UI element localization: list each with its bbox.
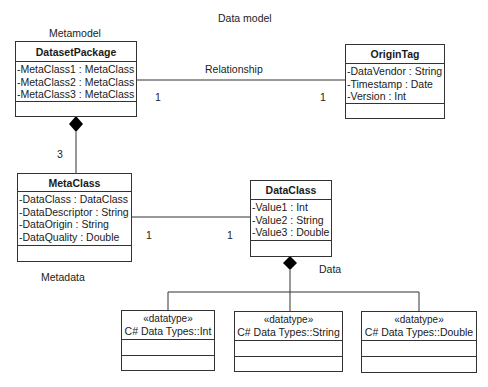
- attribute: -DataVendor : String: [347, 65, 444, 78]
- datatype-int[interactable]: «datatype» C# Data Types::Int: [121, 310, 215, 371]
- datatype-double[interactable]: «datatype» C# Data Types::Double: [361, 311, 477, 373]
- meta-data-target-multiplicity: 1: [227, 229, 233, 241]
- attributes-section: -MetaClass1 : MetaClass -MetaClass2 : Me…: [16, 62, 136, 102]
- relationship-target-multiplicity: 1: [320, 91, 326, 103]
- class-name: DatasetPackage: [16, 42, 136, 62]
- class-name: MetaClass: [18, 174, 131, 192]
- attribute: -MetaClass3 : MetaClass: [17, 88, 136, 101]
- datatype-header: «datatype» C# Data Types::Double: [362, 312, 476, 341]
- class-origin-tag[interactable]: OriginTag -DataVendor : String -Timestam…: [345, 44, 445, 119]
- datatype-string[interactable]: «datatype» C# Data Types::String: [234, 311, 343, 372]
- composition-multiplicity: 3: [57, 148, 63, 160]
- attribute: -Version : Int: [347, 90, 444, 103]
- datatype-name: C# Data Types::Double: [365, 326, 473, 339]
- diagram-title: Data model: [218, 12, 272, 24]
- attribute: -DataDescriptor : String: [19, 206, 131, 219]
- attribute: -Timestamp : Date: [347, 78, 444, 91]
- class-dataset-package[interactable]: DatasetPackage -MetaClass1 : MetaClass -…: [15, 41, 137, 117]
- data-label: Data: [319, 263, 341, 275]
- attributes-section: -DataVendor : String -Timestamp : Date -…: [346, 64, 444, 104]
- metadata-label: Metadata: [41, 271, 85, 283]
- datatype-header: «datatype» C# Data Types::Int: [122, 311, 214, 340]
- stereotype: «datatype»: [394, 313, 444, 326]
- relationship-source-multiplicity: 1: [155, 91, 161, 103]
- attributes-section: -Value1 : Int -Value2 : String -Value3 :…: [251, 200, 331, 241]
- class-data-class[interactable]: DataClass -Value1 : Int -Value2 : String…: [250, 180, 332, 257]
- attribute: -MetaClass2 : MetaClass: [17, 76, 136, 89]
- attribute: -Value1 : Int: [252, 201, 331, 214]
- class-name: OriginTag: [346, 45, 444, 64]
- metamodel-label: Metamodel: [49, 27, 101, 39]
- datatype-header: «datatype» C# Data Types::String: [235, 312, 342, 341]
- attributes-section: -DataClass : DataClass -DataDescriptor :…: [18, 192, 131, 246]
- datatype-name: C# Data Types::Int: [125, 325, 212, 338]
- meta-data-source-multiplicity: 1: [146, 229, 152, 241]
- class-meta-class[interactable]: MetaClass -DataClass : DataClass -DataDe…: [17, 173, 132, 262]
- composition-diamond-icon: [69, 116, 83, 132]
- composition-diamond-data-icon: [283, 256, 297, 270]
- attribute: -MetaClass1 : MetaClass: [17, 63, 136, 76]
- attributes-section: [235, 341, 342, 357]
- datatype-name: C# Data Types::String: [237, 326, 340, 339]
- stereotype: «datatype»: [264, 313, 314, 326]
- attributes-section: [122, 340, 214, 356]
- relationship-label: Relationship: [205, 63, 263, 75]
- attribute: -DataQuality : Double: [19, 231, 131, 244]
- attribute: -Value2 : String: [252, 214, 331, 227]
- attribute: -DataClass : DataClass: [19, 193, 131, 206]
- stereotype: «datatype»: [143, 312, 193, 325]
- attribute: -Value3 : Double: [252, 226, 331, 239]
- attributes-section: [362, 341, 476, 357]
- class-name: DataClass: [251, 181, 331, 200]
- attribute: -DataOrigin : String: [19, 218, 131, 231]
